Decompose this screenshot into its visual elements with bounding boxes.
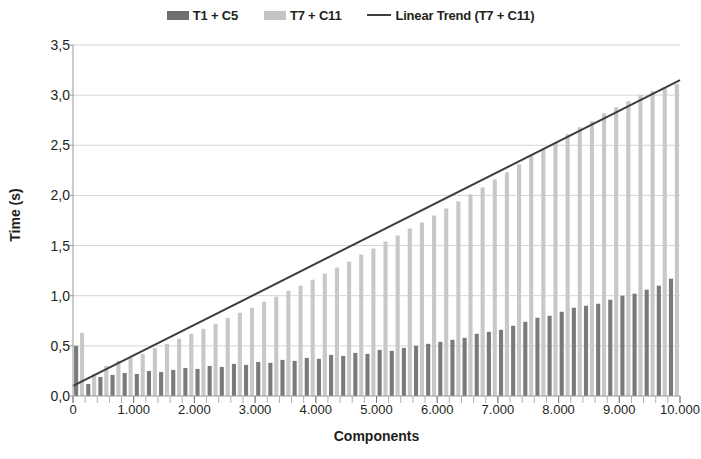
bar-t1-c5 xyxy=(414,346,418,396)
bar-t1-c5 xyxy=(195,369,199,396)
bar-t1-c5 xyxy=(159,372,163,396)
chart-plot-area: Time (s) 0,00,51,01,52,02,53,03,5 01.000… xyxy=(0,0,701,459)
bar-t1-c5 xyxy=(475,334,479,396)
bar-t1-c5 xyxy=(208,366,212,396)
bar-t1-c5 xyxy=(535,318,539,396)
bar-t1-c5 xyxy=(584,306,588,396)
bar-t1-c5 xyxy=(365,354,369,396)
bar-t7-c11 xyxy=(238,313,242,396)
bar-t7-c11 xyxy=(141,354,145,396)
bar-t7-c11 xyxy=(675,84,679,396)
bar-t1-c5 xyxy=(244,365,248,396)
bar-t1-c5 xyxy=(317,359,321,396)
bar-t1-c5 xyxy=(463,338,467,396)
bar-t1-c5 xyxy=(657,286,661,396)
bar-t1-c5 xyxy=(426,344,430,396)
bar-t7-c11 xyxy=(517,164,521,396)
bar-t1-c5 xyxy=(220,367,224,396)
axis-lines xyxy=(73,45,680,396)
bar-t1-c5 xyxy=(268,363,272,396)
bar-t7-c11 xyxy=(80,333,84,396)
bar-t1-c5 xyxy=(110,375,114,396)
bar-t1-c5 xyxy=(135,374,139,396)
chart-canvas xyxy=(0,0,701,459)
bar-t7-c11 xyxy=(286,291,290,396)
trend-line-segment xyxy=(73,80,680,386)
bar-t7-c11 xyxy=(651,91,655,396)
bar-t7-c11 xyxy=(250,308,254,396)
bar-t1-c5 xyxy=(147,371,151,396)
bar-t1-c5 xyxy=(86,384,90,396)
bar-t7-c11 xyxy=(189,334,193,396)
bar-t7-c11 xyxy=(165,344,169,396)
bar-t7-c11 xyxy=(420,223,424,396)
bar-t1-c5 xyxy=(305,358,309,396)
bar-t1-c5 xyxy=(353,353,357,396)
bar-t7-c11 xyxy=(529,155,533,396)
bar-t1-c5 xyxy=(341,356,345,396)
bar-t1-c5 xyxy=(560,312,564,396)
bar-t7-c11 xyxy=(262,302,266,396)
bar-t7-c11 xyxy=(201,329,205,396)
bar-t7-c11 xyxy=(116,361,120,396)
bar-t1-c5 xyxy=(450,340,454,396)
bar-t7-c11 xyxy=(298,286,302,396)
bar-t1-c5 xyxy=(232,364,236,396)
bar-t1-c5 xyxy=(402,348,406,396)
bar-t7-c11 xyxy=(371,249,375,396)
bar-t7-c11 xyxy=(311,280,315,396)
bar-t7-c11 xyxy=(602,113,606,396)
bar-t1-c5 xyxy=(438,342,442,396)
bar-t1-c5 xyxy=(572,308,576,396)
bar-t7-c11 xyxy=(153,348,157,396)
bar-t1-c5 xyxy=(511,326,515,396)
bar-t7-c11 xyxy=(335,268,339,396)
bar-t7-c11 xyxy=(468,194,472,396)
bar-t1-c5 xyxy=(74,346,78,396)
bar-t7-c11 xyxy=(505,172,509,396)
bar-t1-c5 xyxy=(183,368,187,396)
bar-t7-c11 xyxy=(614,107,618,396)
bar-t7-c11 xyxy=(226,318,230,396)
bar-t1-c5 xyxy=(256,362,260,396)
bar-t7-c11 xyxy=(359,255,363,396)
bar-t7-c11 xyxy=(456,201,460,396)
bar-t1-c5 xyxy=(329,355,333,396)
bar-t7-c11 xyxy=(481,187,485,396)
bar-t1-c5 xyxy=(171,370,175,396)
bar-t7-c11 xyxy=(92,374,96,396)
bar-t1-c5 xyxy=(293,361,297,396)
bar-t1-c5 xyxy=(669,279,673,396)
bar-t1-c5 xyxy=(523,322,527,396)
bar-t7-c11 xyxy=(493,179,497,396)
y-axis-ticks xyxy=(69,45,73,396)
bar-t1-c5 xyxy=(608,300,612,396)
bar-t1-c5 xyxy=(499,330,503,396)
bar-t7-c11 xyxy=(566,134,570,396)
bar-t7-c11 xyxy=(626,101,630,396)
bar-t7-c11 xyxy=(177,339,181,396)
bar-t7-c11 xyxy=(638,95,642,396)
gridlines xyxy=(73,45,680,346)
x-axis-title: Components xyxy=(73,428,680,444)
bar-t7-c11 xyxy=(444,208,448,396)
bar-t7-c11 xyxy=(323,274,327,396)
bars-series-t7-c11 xyxy=(80,84,679,396)
trend-line xyxy=(73,80,680,386)
bar-t1-c5 xyxy=(487,332,491,396)
bar-t7-c11 xyxy=(408,229,412,396)
bar-t7-c11 xyxy=(347,262,351,396)
bar-t7-c11 xyxy=(214,324,218,396)
bar-t7-c11 xyxy=(590,121,594,396)
bar-t1-c5 xyxy=(280,360,284,396)
bar-t7-c11 xyxy=(663,87,667,396)
bar-t7-c11 xyxy=(396,236,400,396)
bar-t7-c11 xyxy=(274,297,278,396)
bar-t7-c11 xyxy=(432,215,436,396)
bar-t1-c5 xyxy=(548,316,552,396)
x-axis-ticks xyxy=(73,396,680,403)
bar-t7-c11 xyxy=(129,358,133,396)
bar-t7-c11 xyxy=(553,142,557,396)
bar-t1-c5 xyxy=(633,294,637,396)
bar-t1-c5 xyxy=(645,290,649,396)
